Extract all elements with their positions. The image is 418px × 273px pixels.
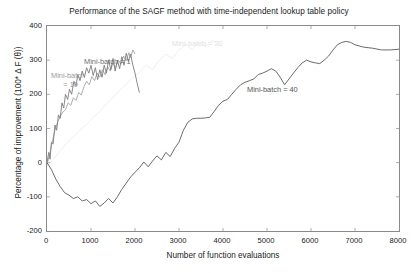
series-annotation-label: Mini-batch = 10 <box>51 71 85 89</box>
x-tick-label: 7000 <box>334 236 374 245</box>
series-annotation-label: Mini-batch = 20 <box>172 39 223 48</box>
x-tick-label: 2000 <box>114 236 154 245</box>
x-tick-label: 5000 <box>246 236 286 245</box>
chart-title: Performance of the SAGF method with time… <box>0 7 418 16</box>
x-tick-label: 0 <box>26 236 66 245</box>
x-tick-label: 4000 <box>202 236 242 245</box>
x-axis-tick-labels: 010002000300040005000600070008000 <box>46 236 400 248</box>
series-annotation-label: Mini-batch = 40 <box>247 85 298 94</box>
y-axis-tick-labels: 4003002001000-100-200 <box>4 25 42 232</box>
x-tick-label: 8000 <box>378 236 418 245</box>
series-line <box>47 40 223 166</box>
chart-figure: Performance of the SAGF method with time… <box>0 0 418 273</box>
x-axis-label: Number of function evaluations <box>46 251 400 260</box>
y-axis-label: Percentage of improvement (100* Δ F (θ)) <box>14 13 23 233</box>
x-tick-label: 3000 <box>158 236 198 245</box>
series-annotation-label: Mini-batch = 1 <box>84 57 131 66</box>
x-tick-label: 1000 <box>70 236 110 245</box>
x-tick-label: 6000 <box>290 236 330 245</box>
series-line <box>47 41 399 206</box>
series-line <box>47 53 139 162</box>
